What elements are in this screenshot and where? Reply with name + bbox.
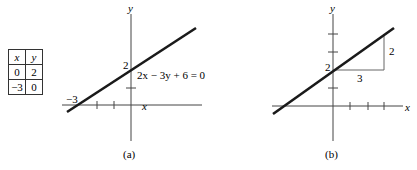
graph-a: x y 2 −3 2x − 3y + 6 = 0 (a)	[62, 2, 206, 161]
graph-b: x y 2 2 3 (b)	[272, 2, 410, 161]
y-axis-label: y	[127, 2, 133, 14]
y-intercept-label: 2	[325, 61, 331, 73]
x-intercept-label: −3	[66, 93, 78, 105]
caption-a: (a)	[123, 148, 136, 161]
x-axis-label: x	[141, 100, 147, 112]
x-axis-label: x	[404, 101, 410, 113]
rise-label: 2	[389, 45, 395, 57]
caption-b: (b)	[325, 148, 338, 161]
y-intercept-label: 2	[123, 59, 129, 71]
equation-label: 2x − 3y + 6 = 0	[137, 69, 206, 81]
y-axis-label: y	[329, 2, 335, 14]
run-label: 3	[357, 72, 363, 84]
graphs-canvas: x y 2 −3 2x − 3y + 6 = 0 (a) x y 2 2 3 (…	[0, 0, 417, 170]
